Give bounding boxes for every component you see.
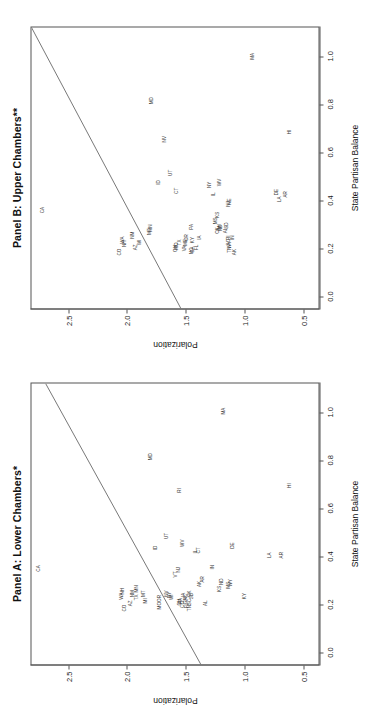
- data-point-label: IN: [231, 235, 236, 240]
- data-point-label: FL: [195, 244, 200, 249]
- y-axis-tick: 1.0: [244, 309, 245, 313]
- data-point-label: MI: [144, 598, 149, 603]
- panel-a-title: Panel A: Lower Chambers*: [10, 356, 22, 711]
- data-point-label: LA: [267, 552, 272, 558]
- data-point-label: AR: [201, 576, 206, 582]
- data-point-label: WI: [170, 594, 175, 600]
- data-point-label: KY: [243, 592, 248, 598]
- data-point-label: NE: [227, 198, 232, 204]
- y-axis-tick: 1.0: [244, 665, 245, 669]
- data-point-label: WY: [227, 241, 232, 248]
- data-point-label: CT: [196, 547, 201, 553]
- data-point-label: ND: [219, 578, 224, 585]
- panel-b-y-axis-title-text: Polarization: [152, 339, 196, 349]
- y-axis-tick-label: 1.5: [182, 671, 191, 681]
- data-point-label: ID: [153, 545, 158, 550]
- data-point-label: KY: [191, 236, 196, 242]
- x-axis-tick-label: 0.8: [325, 455, 334, 465]
- x-axis-tick: 0.0: [319, 652, 323, 653]
- data-point-label: CO: [123, 604, 128, 611]
- panel-b-x-axis-title: State Partisan Balance: [349, 26, 359, 309]
- data-point-label: CA: [37, 565, 42, 571]
- data-point-label: MN: [149, 224, 154, 231]
- y-axis-tick-label: 1.5: [182, 315, 191, 325]
- data-point-label: SD: [189, 592, 194, 598]
- data-point-label: RI: [178, 488, 183, 493]
- data-point-label: AZ: [129, 600, 134, 606]
- data-point-label: TX: [135, 594, 140, 600]
- data-point-label: KS: [218, 585, 223, 591]
- data-point-label: NJ: [176, 566, 181, 572]
- x-axis-tick-label: 0.0: [325, 647, 334, 657]
- y-axis-tick-label: 2.0: [123, 315, 132, 325]
- data-point-label: MA: [222, 407, 227, 414]
- x-axis-tick: 0.4: [319, 200, 323, 201]
- data-point-label: TX: [177, 239, 182, 245]
- data-point-label: IL: [212, 192, 217, 196]
- data-point-label: CT: [175, 187, 180, 193]
- data-point-label: WA: [120, 236, 125, 243]
- data-point-label: WV: [180, 539, 185, 546]
- data-point-label: IN: [211, 564, 216, 569]
- data-point-label: ND: [219, 224, 224, 231]
- x-axis-tick-label: 0.2: [325, 599, 334, 609]
- panel-a: Panel A: Lower Chambers* CACOWANHAZNMTXM…: [0, 356, 377, 711]
- data-point-label: AL: [223, 227, 228, 233]
- y-axis-tick-label: 2.0: [123, 671, 132, 681]
- data-point-label: NM: [131, 231, 136, 238]
- data-point-label: WI: [138, 239, 143, 245]
- x-axis-tick: 0.6: [319, 508, 323, 509]
- data-point-label: NH: [120, 587, 125, 594]
- x-axis-tick-label: 0.8: [325, 99, 334, 109]
- panel-a-y-axis-title-text: Polarization: [152, 695, 196, 705]
- data-point-label: WV: [218, 178, 223, 185]
- panel-b-y-axis-line: [30, 308, 319, 309]
- two-panel-scatter-figure: Panel A: Lower Chambers* CACOWANHAZNMTXM…: [0, 0, 377, 711]
- data-point-label: MO: [158, 601, 163, 608]
- y-axis-tick-label: 1.0: [241, 315, 250, 325]
- panel-b-title: Panel B: Upper Chambers**: [10, 0, 22, 355]
- data-point-label: DE: [231, 542, 236, 548]
- data-point-label: PA: [190, 223, 195, 229]
- x-axis-tick: 0.8: [319, 104, 323, 105]
- y-axis-tick-label: 0.5: [299, 671, 308, 681]
- y-axis-tick-label: 2.5: [64, 315, 73, 325]
- data-point-label: AL: [204, 600, 209, 606]
- y-axis-tick: 2.0: [126, 665, 127, 669]
- data-point-label: NY: [208, 181, 213, 187]
- data-point-label: HI: [287, 129, 292, 134]
- data-point-label: UT: [169, 169, 174, 175]
- data-point-label: VA: [183, 245, 188, 251]
- y-axis-tick: 2.0: [126, 309, 127, 313]
- x-axis-tick: 0.2: [319, 248, 323, 249]
- data-point-label: MA: [251, 52, 256, 59]
- y-axis-tick-label: 2.5: [64, 671, 73, 681]
- y-axis-tick: 0.5: [303, 665, 304, 669]
- x-axis-tick: 0.8: [319, 460, 323, 461]
- data-point-label: AR: [279, 552, 284, 558]
- figure-rotator: Panel A: Lower Chambers* CACOWANHAZNMTXM…: [0, 0, 377, 711]
- x-axis-tick-label: 0.4: [325, 195, 334, 205]
- x-axis-tick-label: 0.4: [325, 551, 334, 561]
- y-axis-tick-label: 0.5: [299, 315, 308, 325]
- data-point-label: OR: [185, 234, 190, 241]
- data-point-label: MD: [149, 453, 154, 460]
- panel-b-regression-line: [31, 27, 318, 308]
- y-axis-tick: 1.5: [185, 665, 186, 669]
- x-axis-tick: 0.2: [319, 604, 323, 605]
- panel-a-x-axis-title: State Partisan Balance: [349, 382, 359, 665]
- x-axis-tick: 0.4: [319, 556, 323, 557]
- data-point-label: CO: [118, 248, 123, 255]
- panel-a-regression-line: [31, 383, 318, 664]
- data-point-label: CA: [40, 206, 45, 212]
- x-axis-tick: 1.0: [319, 56, 323, 57]
- y-axis-tick: 2.5: [68, 665, 69, 669]
- panel-a-plot-area: CACOWANHAZNMTXMNMTMIMOORNVNYWIIDUTMDVTNJ…: [30, 382, 319, 665]
- data-point-label: ID: [157, 180, 162, 185]
- x-axis-tick-label: 0.6: [325, 147, 334, 157]
- panel-b: Panel B: Upper Chambers** CACONHWAAZNMWI…: [0, 0, 377, 355]
- x-axis-tick: 1.0: [319, 412, 323, 413]
- panel-b-x-axis-line: [319, 26, 320, 309]
- data-point-label: MN: [135, 585, 140, 592]
- panel-b-plot-area: CACONHWAAZNMWIMTMNMDIDNVUTCTOHMOTXVAMEOR…: [30, 26, 319, 309]
